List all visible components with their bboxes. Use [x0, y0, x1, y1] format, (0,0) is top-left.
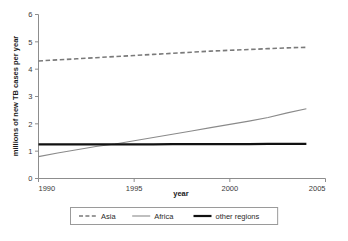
y-axis-tick-label: 5	[28, 38, 32, 47]
y-axis-tick-label: 3	[28, 92, 32, 101]
chart-legend: AsiaAfricaother regions	[71, 208, 278, 225]
chart-canvas: 0123456 1990199520002005 millions of new…	[0, 0, 348, 241]
legend-label-other-regions: other regions	[216, 212, 260, 221]
series-line-other-regions	[39, 144, 307, 145]
x-axis-tick-label: 2000	[221, 184, 238, 193]
legend-label-africa: Africa	[154, 212, 174, 221]
y-axis-tick-label: 2	[28, 120, 32, 129]
y-axis-tick-label: 4	[28, 65, 32, 74]
y-axis-tick-label: 6	[28, 10, 32, 19]
chart-background	[0, 0, 348, 241]
legend-label-asia: Asia	[101, 212, 116, 221]
x-axis-title: year	[173, 189, 189, 198]
y-axis-tick-label: 0	[28, 174, 32, 183]
x-axis-tick-label: 1990	[39, 184, 56, 193]
y-axis-tick-label: 1	[28, 147, 32, 156]
x-axis-tick-label: 2005	[309, 184, 326, 193]
y-axis-title: millions of new TB cases per year	[11, 36, 20, 157]
x-axis-tick-label: 1995	[126, 184, 143, 193]
tb-cases-line-chart: 0123456 1990199520002005 millions of new…	[0, 0, 348, 241]
